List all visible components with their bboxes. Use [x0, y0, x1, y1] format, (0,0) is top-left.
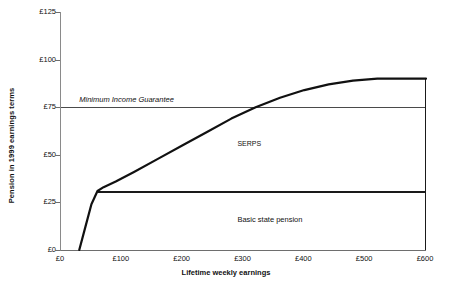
annotation-serps: SERPS — [237, 140, 261, 147]
x-tick-label: £200 — [173, 254, 190, 263]
y-tick-label: £75 — [12, 102, 56, 111]
y-tick-mark — [55, 107, 60, 108]
x-tick-label: £300 — [234, 254, 251, 263]
y-tick-mark — [55, 12, 60, 13]
pension-chart: Pension in 1999 earnings terms £0£25£50£… — [0, 0, 452, 293]
y-tick-label: £50 — [12, 150, 56, 159]
y-tick-mark — [55, 155, 60, 156]
x-tick-label: £400 — [295, 254, 312, 263]
annotation-basic-state-pension: Basic state pension — [237, 215, 302, 224]
annotation-minimum-income-guarantee: Minimum Income Guarantee — [79, 95, 174, 104]
plot-area: Minimum Income Guarantee SERPS Basic sta… — [60, 12, 426, 251]
y-tick-mark — [55, 250, 60, 251]
x-axis-ticks: £0£100£200£300£400£500£600 — [0, 250, 452, 270]
y-tick-label: £100 — [12, 55, 56, 64]
y-tick-label: £25 — [12, 197, 56, 206]
x-tick-label: £100 — [112, 254, 129, 263]
x-axis-label: Lifetime weekly earnings — [0, 268, 452, 277]
y-tick-mark — [55, 202, 60, 203]
y-tick-mark — [55, 60, 60, 61]
x-tick-label: £600 — [417, 254, 434, 263]
y-tick-label: £125 — [12, 7, 56, 16]
x-tick-label: £500 — [356, 254, 373, 263]
x-tick-label: £0 — [56, 254, 64, 263]
